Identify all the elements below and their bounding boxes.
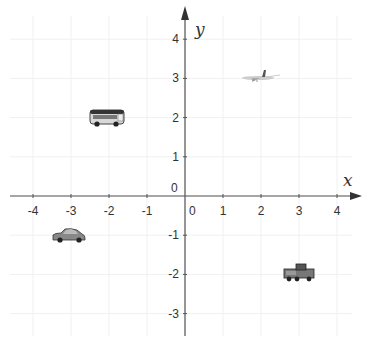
y-tick-label: -2 xyxy=(168,267,179,281)
x-tick-label: 3 xyxy=(296,204,303,218)
bus-icon xyxy=(90,110,124,127)
y-tick-label: 1 xyxy=(172,150,179,164)
y-tick-label: 3 xyxy=(172,71,179,85)
x-tick-label: 0 xyxy=(189,204,196,218)
x-tick-label: 4 xyxy=(334,204,341,218)
car-icon xyxy=(53,229,85,243)
coordinate-plane: -4-3-2-1012344321-1-2-3 x y 0 xyxy=(0,0,369,345)
grid-lines xyxy=(10,16,352,336)
y-tick-label: 2 xyxy=(172,111,179,125)
origin-label: 0 xyxy=(171,181,178,195)
x-axis-label: x xyxy=(343,170,353,190)
x-tick-label: -2 xyxy=(104,204,115,218)
x-tick-label: -4 xyxy=(28,204,39,218)
truck-icon xyxy=(284,264,314,281)
y-tick-label: -1 xyxy=(168,228,179,242)
x-tick-label: 1 xyxy=(220,204,227,218)
y-axis-label: y xyxy=(194,19,205,39)
x-axis-arrow-icon xyxy=(350,192,362,200)
x-tick-label: -3 xyxy=(66,204,77,218)
y-tick-label: 4 xyxy=(172,32,179,46)
y-axis-arrow-icon xyxy=(181,6,189,20)
y-tick-label: -3 xyxy=(168,307,179,321)
x-tick-label: 2 xyxy=(258,204,265,218)
x-tick-label: -1 xyxy=(142,204,153,218)
